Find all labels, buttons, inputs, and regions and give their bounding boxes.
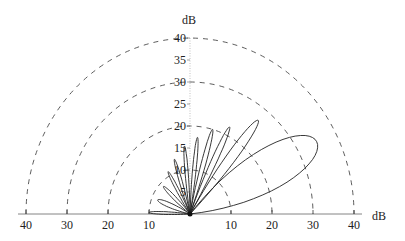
v-tick-label: 30 bbox=[174, 75, 186, 89]
v-tick-label: 40 bbox=[174, 31, 186, 45]
h-tick-label: 30 bbox=[61, 218, 73, 232]
h-tick-label: 10 bbox=[143, 218, 155, 232]
lobe-10 bbox=[149, 212, 190, 215]
h-tick-label: 40 bbox=[348, 218, 360, 232]
v-tick-label: 25 bbox=[174, 97, 186, 111]
v-tick-label: 35 bbox=[174, 53, 186, 67]
right-unit-label: dB bbox=[372, 209, 386, 223]
lobe-5 bbox=[184, 146, 190, 214]
lobe-0 bbox=[190, 136, 318, 215]
top-unit-label: dB bbox=[182, 13, 196, 27]
polar-chart: 4030201010203040 510152025303540 dB dB bbox=[0, 0, 405, 241]
h-tick-label: 10 bbox=[225, 218, 237, 232]
h-tick-label: 20 bbox=[266, 218, 278, 232]
v-tick-label: 20 bbox=[174, 119, 186, 133]
h-tick-label: 20 bbox=[102, 218, 114, 232]
vertical-ticks: 510152025303540 bbox=[174, 31, 190, 199]
h-tick-label: 30 bbox=[307, 218, 319, 232]
h-tick-label: 40 bbox=[20, 218, 32, 232]
